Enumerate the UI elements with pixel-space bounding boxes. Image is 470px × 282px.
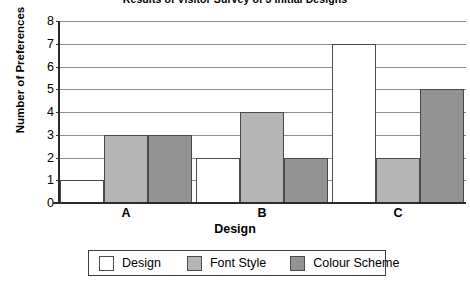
x-axis-title: Design	[0, 222, 470, 236]
bar-c-font-style	[376, 158, 420, 204]
legend-item-design[interactable]: Design	[99, 256, 161, 271]
gridline	[58, 89, 466, 90]
legend-label: Design	[122, 257, 161, 270]
bar-a-colour-scheme	[148, 135, 192, 203]
bar-b-font-style	[240, 112, 284, 203]
gridline	[58, 21, 466, 22]
gridline	[58, 67, 466, 68]
legend-label: Colour Scheme	[313, 257, 399, 270]
x-group-label-c: C	[368, 206, 428, 220]
x-group-label-a: A	[96, 206, 156, 220]
bar-b-colour-scheme	[284, 158, 328, 204]
bar-b-design	[196, 158, 240, 204]
legend-swatch-icon	[290, 256, 305, 271]
chart-title: Results of Visitor Survey of 3 Initial D…	[0, 0, 470, 5]
gridline	[58, 44, 466, 45]
bar-a-design	[60, 180, 104, 203]
y-axis-line	[58, 21, 60, 204]
bar-c-colour-scheme	[420, 89, 464, 203]
x-group-label-b: B	[232, 206, 292, 220]
legend-item-font-style[interactable]: Font Style	[187, 256, 266, 271]
legend-item-colour-scheme[interactable]: Colour Scheme	[290, 256, 399, 271]
x-axis-line	[53, 202, 466, 204]
legend-swatch-icon	[187, 256, 202, 271]
legend-label: Font Style	[210, 257, 266, 270]
bar-c-design	[332, 44, 376, 203]
legend-swatch-icon	[99, 256, 114, 271]
chart-legend: DesignFont StyleColour Scheme	[88, 250, 386, 276]
y-axis-title: Number of Preferences	[14, 0, 26, 150]
bar-a-font-style	[104, 135, 148, 203]
plot-area	[58, 21, 466, 203]
